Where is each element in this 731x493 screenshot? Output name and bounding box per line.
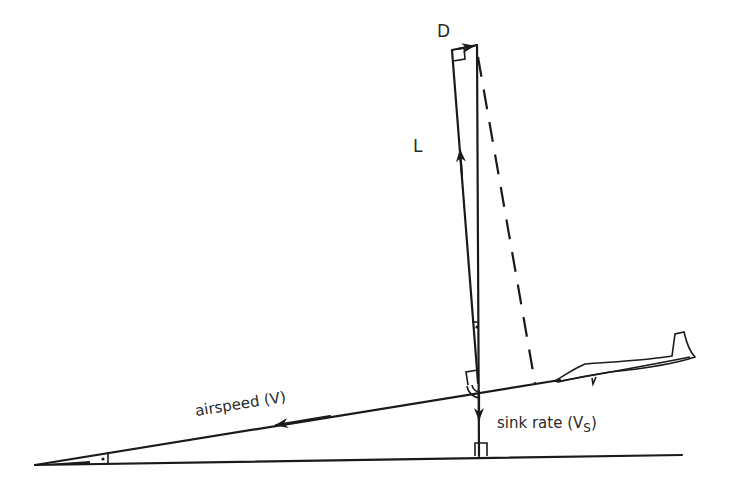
angle-dot-mid (475, 325, 478, 328)
lift-arrow-icon (460, 150, 462, 175)
glide-force-diagram: D L airspeed (V) sink rate (VS) (0, 0, 731, 493)
angle-dot-left (101, 457, 104, 460)
sink-rate-label-suffix: ) (591, 414, 597, 432)
dashed-projection-line (478, 57, 535, 383)
right-angle-marker-ground (475, 443, 487, 456)
airspeed-arrow-icon (276, 416, 330, 425)
airspeed-label: airspeed (V) (194, 388, 287, 420)
sink-rate-label: sink rate (VS) (497, 414, 597, 435)
sink-rate-label-prefix: sink rate (V (497, 414, 584, 432)
glider-icon (555, 332, 695, 384)
lift-vector-line (452, 50, 478, 383)
sink-rate-label-subscript: S (583, 421, 591, 435)
lift-label: L (413, 136, 423, 156)
drag-arrow-icon (458, 46, 474, 49)
drag-label: D (437, 21, 450, 41)
horizontal-ground-line (35, 455, 682, 465)
